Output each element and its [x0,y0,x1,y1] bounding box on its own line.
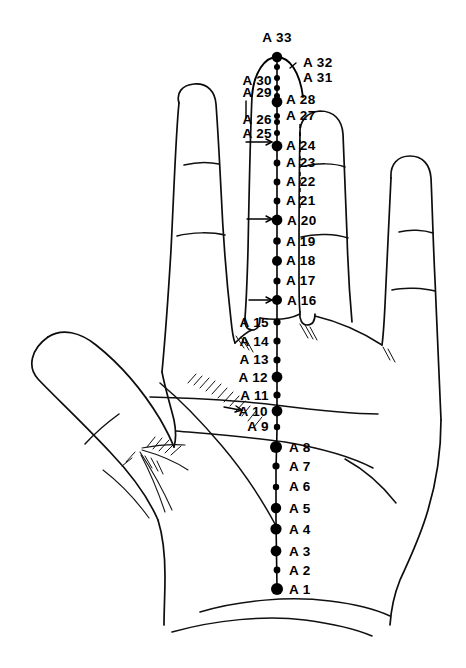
point-marker[interactable] [272,215,283,226]
hand-acupuncture-figure: Hand Acupuncture Point Diagram Line draw… [0,0,466,668]
thumb-outline [32,337,158,520]
thumb-web-crease-2 [141,455,165,512]
hypothenar-crease [345,459,396,503]
palm-right-border [390,420,441,625]
point-marker[interactable] [272,406,283,417]
point-label: A 23 [286,155,316,170]
point-marker[interactable] [273,277,280,284]
point-marker[interactable] [272,462,279,469]
point-marker[interactable] [274,64,280,70]
point-label: A 11 [240,388,269,403]
point-label: A 9 [247,419,269,434]
point-marker[interactable] [274,179,281,186]
point-a25[interactable]: A 25 [242,126,280,141]
point-a24[interactable]: A 24 [272,138,316,153]
point-a7[interactable]: A 7 [272,459,310,474]
little-dip-crease [399,230,433,233]
thumb-web-crease-1 [140,452,172,510]
point-a33[interactable]: A 33 [262,30,292,62]
point-a19[interactable]: A 19 [273,234,315,249]
thumb-web-crease-3 [103,470,149,518]
point-a21[interactable]: A 21 [274,193,316,208]
point-marker[interactable] [274,75,280,81]
thumb-ip-crease [85,414,119,444]
point-marker[interactable] [271,583,283,595]
point-marker[interactable] [271,503,281,513]
point-marker[interactable] [272,295,282,305]
point-label: A 27 [286,108,316,123]
point-marker[interactable] [270,523,281,534]
point-a18[interactable]: A 18 [272,253,316,268]
point-label: A 29 [242,85,272,100]
point-marker[interactable] [273,237,281,245]
point-a15[interactable]: A 15 [239,315,280,330]
little-pip-crease [392,288,435,291]
point-marker[interactable] [273,337,280,344]
point-a20[interactable]: A 20 [272,213,317,228]
point-a13[interactable]: A 13 [239,352,280,367]
wrist-crease-distal [200,599,390,616]
point-a2[interactable]: A 2 [274,563,311,578]
point-a1[interactable]: A 1 [271,582,311,597]
point-marker[interactable] [274,113,280,119]
point-marker[interactable] [272,52,282,62]
point-a8[interactable]: A 8 [270,440,311,455]
point-label: A 5 [289,501,311,516]
point-marker[interactable] [273,356,280,363]
point-label: A 22 [286,174,316,189]
hand-outline-group [32,84,441,625]
point-label: A 1 [289,582,311,597]
ring-finger-base-notch [300,312,315,325]
point-marker[interactable] [274,85,280,91]
index-pip-crease [177,233,225,236]
point-marker[interactable] [274,567,281,574]
point-a31[interactable]: A 31 [274,70,333,85]
point-label: A 7 [289,459,311,474]
thumb-upper-edge [48,332,174,447]
point-label: A 19 [286,234,316,249]
point-a16[interactable]: A 16 [272,293,317,308]
point-label: A 12 [238,370,268,385]
point-a22[interactable]: A 22 [274,174,316,189]
point-label: A 6 [289,479,311,494]
point-label: A 31 [303,70,333,85]
point-a23[interactable]: A 23 [274,155,316,170]
acupuncture-points-layer[interactable]: A 33A 32A 31A 30A 29A 28A 27A 26A 25A 24… [238,30,332,597]
point-marker[interactable] [274,160,281,167]
point-marker[interactable] [272,97,283,108]
index-finger-left-edge [162,103,179,372]
point-marker[interactable] [272,372,283,383]
point-marker[interactable] [270,441,282,453]
point-marker[interactable] [272,256,282,266]
point-label: A 32 [303,55,333,70]
index-dip-crease [184,163,219,165]
point-a12[interactable]: A 12 [238,370,282,385]
little-finger-left-edge [382,178,391,345]
point-marker[interactable] [273,391,280,398]
ring-finger-base-hatching [300,324,317,340]
point-a9[interactable]: A 9 [247,419,280,434]
wrist-crease-proximal [172,618,372,636]
point-label: A 14 [239,334,269,349]
point-label: A 2 [289,563,311,578]
point-label: A 17 [286,273,316,288]
point-marker[interactable] [271,546,282,557]
point-a14[interactable]: A 14 [239,334,280,349]
point-a26[interactable]: A 26 [242,112,280,127]
point-label: A 25 [242,126,272,141]
point-marker[interactable] [272,141,283,152]
point-label: A 15 [239,315,269,330]
point-a17[interactable]: A 17 [273,273,315,288]
point-a11[interactable]: A 11 [240,388,280,403]
point-a10[interactable]: A 10 [238,404,282,419]
point-marker[interactable] [273,484,279,490]
point-marker[interactable] [273,318,280,325]
point-label: A 8 [289,440,311,455]
point-a27[interactable]: A 27 [274,108,316,123]
point-marker[interactable] [274,130,280,136]
point-a6[interactable]: A 6 [273,479,311,494]
point-label: A 33 [262,30,292,45]
point-marker[interactable] [274,119,280,125]
point-marker[interactable] [274,424,280,430]
point-marker[interactable] [274,198,281,205]
